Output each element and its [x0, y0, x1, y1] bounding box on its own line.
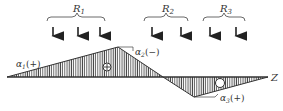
minus-marker-icon: [216, 79, 225, 88]
label-alpha2: α2(−): [135, 47, 159, 58]
label-r2: R2: [161, 3, 175, 16]
plus-marker-icon: [103, 63, 111, 71]
brace-r2: [144, 13, 188, 21]
brace-r1: [47, 13, 105, 21]
label-alpha3: α3(+): [220, 93, 244, 104]
brace-r3: [203, 13, 245, 21]
influence-line-diagram: Z R1 R2 R3 α1(+) α2(−) α3(+): [0, 0, 283, 111]
label-r3: R3: [219, 3, 233, 16]
label-r1: R1: [72, 3, 85, 16]
label-alpha1: α1(+): [16, 59, 40, 70]
negative-region: [163, 77, 268, 97]
r1-arrows: [53, 27, 100, 36]
axis-label-z: Z: [270, 72, 279, 83]
